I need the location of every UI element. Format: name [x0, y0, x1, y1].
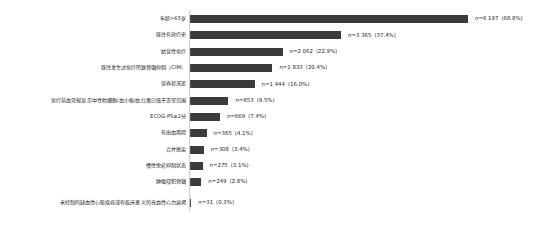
bar-group: n=249(2.8%) [190, 178, 247, 186]
category-label: 有出血风险 [161, 130, 186, 136]
chart-row: 慢性免疫抑制状态 n=275(3.1%) [0, 158, 552, 174]
bar-group: n=1 833(20.4%) [190, 64, 327, 72]
bar [190, 15, 468, 23]
count-value: 365 [222, 130, 232, 136]
percent-value: (20.4%) [306, 64, 327, 70]
bar [190, 162, 203, 170]
bar-group: n=308(3.4%) [190, 146, 250, 154]
value-label: n=31(0.3%) [198, 200, 234, 205]
percent-value: (22.9%) [316, 48, 337, 54]
value-label: n=2 062(22.9%) [290, 49, 338, 54]
count-value: 308 [219, 146, 229, 152]
bar [190, 64, 272, 72]
chart-row: 既往有放疗史 n=3 365(37.4%) [0, 27, 552, 43]
value-label: n=3 365(37.4%) [348, 33, 396, 38]
bar-group: n=669(7.4%) [190, 113, 266, 121]
count-value: 31 [206, 199, 213, 205]
bar-group: n=31(0.3%) [190, 199, 234, 207]
value-label: n=853(9.5%) [235, 98, 274, 103]
bar-group: n=6 197(68.8%) [190, 15, 523, 23]
percent-value: (37.4%) [374, 32, 395, 38]
bar-group: n=1 444(16.0%) [190, 80, 309, 88]
value-label: n=1 444(16.0%) [262, 82, 310, 87]
count-value: 3 365 [356, 32, 371, 38]
count-value: 275 [217, 162, 227, 168]
percent-value: (3.1%) [231, 162, 249, 168]
category-label: 既往有放疗史 [156, 33, 186, 39]
category-label: 慢性免疫抑制状态 [146, 163, 186, 169]
bar-group: n=3 365(37.4%) [190, 31, 396, 39]
category-label: 未控制的缺血性心脏疾病或有临床意义的充血性心力衰竭 [60, 200, 186, 206]
chart-row: 姑息性化疗 n=2 062(22.9%) [0, 44, 552, 60]
percent-value: (3.4%) [232, 146, 250, 152]
value-label: n=275(3.1%) [210, 163, 249, 168]
value-label: n=249(2.8%) [208, 179, 247, 184]
bar [190, 48, 283, 56]
bar [190, 113, 220, 121]
percent-value: (7.4%) [248, 113, 266, 119]
count-value: 6 197 [483, 15, 498, 21]
bar [190, 178, 201, 186]
category-label: 年龄>65岁 [160, 16, 186, 22]
chart-row: 肿瘤侵犯骨髓 n=249(2.8%) [0, 174, 552, 190]
value-label: n=6 197(68.8%) [475, 16, 523, 21]
percent-value: (68.8%) [501, 15, 522, 21]
percent-value: (4.1%) [235, 130, 253, 136]
bar [190, 31, 341, 39]
category-label: 肿瘤侵犯骨髓 [156, 179, 186, 185]
bar-group: n=275(3.1%) [190, 162, 249, 170]
chart-row: 未控制的缺血性心脏疾病或有临床意义的充血性心力衰竭 n=31(0.3%) [0, 195, 552, 211]
category-label: 合并感染 [166, 147, 186, 153]
bar [190, 129, 207, 137]
category-label: 营养状况差 [161, 81, 186, 87]
bar [190, 80, 255, 88]
percent-value: (16.0%) [288, 81, 309, 87]
percent-value: (2.8%) [230, 178, 248, 184]
count-value: 2 062 [297, 48, 312, 54]
category-label: 姑息性化疗 [161, 49, 186, 55]
bar-chart: 年龄>65岁 n=6 197(68.8%) 既往有放疗史 n=3 365(37.… [0, 0, 552, 235]
bar-group: n=2 062(22.9%) [190, 48, 337, 56]
chart-row: 年龄>65岁 n=6 197(68.8%) [0, 11, 552, 27]
percent-value: (0.3%) [216, 199, 234, 205]
bar-group: n=853(9.5%) [190, 97, 275, 105]
chart-row: ECOG-PS≥2分 n=669(7.4%) [0, 109, 552, 125]
chart-row: 合并感染 n=308(3.4%) [0, 141, 552, 157]
count-value: 853 [243, 97, 253, 103]
chart-row: 既往发生过化疗所致骨髓抑制（CIM） n=1 833(20.4%) [0, 60, 552, 76]
count-value: 249 [216, 178, 226, 184]
chart-row: 有出血风险 n=365(4.1%) [0, 125, 552, 141]
count-value: 1 444 [270, 81, 285, 87]
count-value: 669 [235, 113, 245, 119]
value-label: n=365(4.1%) [214, 131, 253, 136]
category-label: ECOG-PS≥2分 [150, 114, 186, 120]
category-label: 既往发生过化疗所致骨髓抑制（CIM） [101, 65, 186, 71]
bar-group: n=365(4.1%) [190, 129, 253, 137]
bar [190, 97, 228, 105]
bar [190, 146, 204, 154]
value-label: n=308(3.4%) [211, 147, 250, 152]
percent-value: (9.5%) [257, 97, 275, 103]
chart-row: 化疗前血常规显示中性粒细胞/血小板/血红蛋白低于正常范围 n=853(9.5%) [0, 93, 552, 109]
category-label: 化疗前血常规显示中性粒细胞/血小板/血红蛋白低于正常范围 [51, 98, 186, 104]
bar [190, 199, 191, 207]
count-value: 1 833 [287, 64, 302, 70]
chart-row: 营养状况差 n=1 444(16.0%) [0, 76, 552, 92]
value-label: n=1 833(20.4%) [279, 65, 327, 70]
value-label: n=669(7.4%) [227, 114, 266, 119]
